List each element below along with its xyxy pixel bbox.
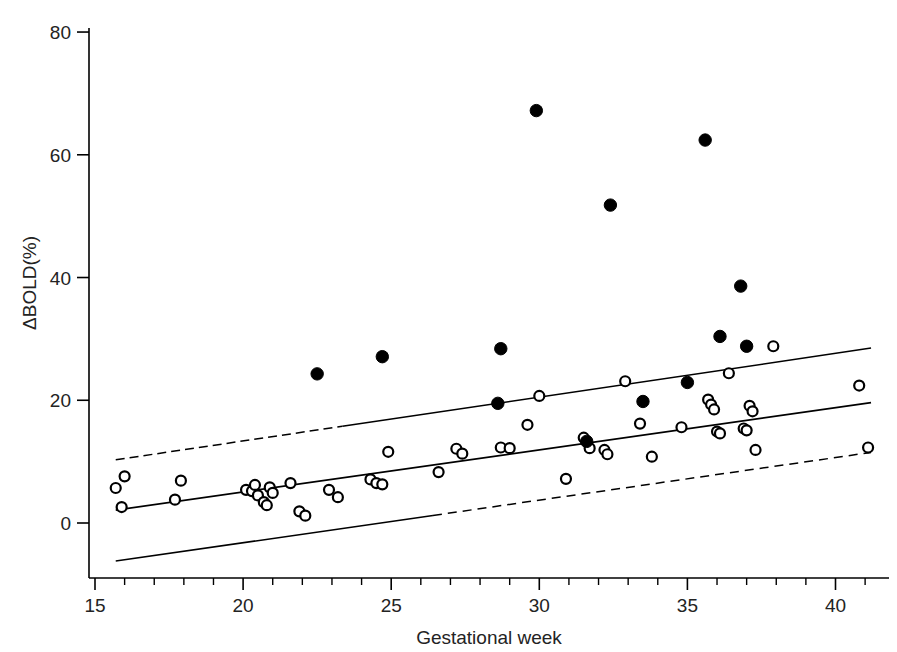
- data-point-open: [534, 391, 544, 401]
- y-tick-label: 80: [50, 22, 71, 43]
- data-point-open: [250, 480, 260, 490]
- y-tick-label: 40: [50, 268, 71, 289]
- data-point-filled: [580, 435, 592, 447]
- data-point-open: [120, 471, 130, 481]
- data-point-open: [647, 452, 657, 462]
- y-tick-label: 0: [60, 513, 71, 534]
- y-tick-label: 20: [50, 390, 71, 411]
- x-tick-label: 20: [233, 595, 254, 616]
- data-point-open: [561, 474, 571, 484]
- data-point-open: [863, 443, 873, 453]
- data-point-filled: [637, 395, 649, 407]
- data-point-open: [434, 467, 444, 477]
- data-point-open: [854, 381, 864, 391]
- data-point-open: [742, 425, 752, 435]
- data-point-filled: [530, 104, 542, 116]
- data-point-open: [522, 420, 532, 430]
- data-point-open: [635, 419, 645, 429]
- data-point-filled: [740, 340, 752, 352]
- data-point-open: [285, 478, 295, 488]
- scatter-plot-figure: 152025303540 020406080 Gestational weekΔ…: [0, 0, 897, 652]
- data-point-filled: [699, 134, 711, 146]
- x-tick-label: 15: [84, 595, 105, 616]
- data-point-filled: [492, 397, 504, 409]
- data-point-filled: [735, 280, 747, 292]
- data-point-open: [709, 404, 719, 414]
- data-point-open: [715, 428, 725, 438]
- x-tick-label: 35: [677, 595, 698, 616]
- x-tick-label: 40: [825, 595, 846, 616]
- data-point-open: [505, 443, 515, 453]
- data-point-open: [262, 500, 272, 510]
- data-point-open: [324, 485, 334, 495]
- data-point-open: [300, 511, 310, 521]
- data-point-filled: [495, 343, 507, 355]
- plot-background: [0, 0, 897, 652]
- plot-canvas: 152025303540 020406080 Gestational weekΔ…: [0, 0, 897, 652]
- data-point-open: [111, 483, 121, 493]
- data-point-open: [676, 422, 686, 432]
- x-axis-title: Gestational week: [416, 627, 562, 648]
- x-tick-label: 25: [381, 595, 402, 616]
- data-point-open: [748, 406, 758, 416]
- data-point-filled: [714, 330, 726, 342]
- data-point-open: [602, 449, 612, 459]
- data-point-open: [333, 492, 343, 502]
- data-point-open: [751, 445, 761, 455]
- data-point-open: [117, 502, 127, 512]
- data-point-open: [620, 376, 630, 386]
- data-point-open: [457, 449, 467, 459]
- data-point-open: [383, 447, 393, 457]
- data-point-filled: [311, 368, 323, 380]
- data-point-filled: [376, 350, 388, 362]
- data-point-open: [768, 341, 778, 351]
- y-axis-title: ΔBOLD(%): [19, 236, 40, 330]
- data-point-filled: [681, 376, 693, 388]
- data-point-open: [377, 479, 387, 489]
- data-point-filled: [604, 199, 616, 211]
- data-point-open: [268, 488, 278, 498]
- data-point-open: [724, 368, 734, 378]
- data-point-open: [170, 495, 180, 505]
- data-point-open: [176, 476, 186, 486]
- y-tick-label: 60: [50, 145, 71, 166]
- x-tick-label: 30: [529, 595, 550, 616]
